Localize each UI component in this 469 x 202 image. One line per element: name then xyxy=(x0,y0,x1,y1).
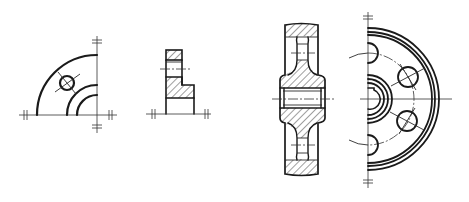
hatched-region xyxy=(285,24,318,38)
pitch-circle-extension xyxy=(349,140,368,145)
hatched-region xyxy=(166,77,194,98)
l-section-view xyxy=(146,50,211,119)
web-wall xyxy=(288,123,297,160)
pitch-circle-extension xyxy=(349,53,368,58)
hatched-region xyxy=(166,50,182,60)
technical-drawing-canvas xyxy=(0,0,469,202)
gear-cross-section-view xyxy=(272,24,334,176)
half-gear-front-view xyxy=(349,12,452,188)
web-wall xyxy=(308,37,317,75)
outer-arc xyxy=(37,55,97,115)
web-wall xyxy=(288,37,297,75)
quarter-flange-view xyxy=(19,36,117,133)
web-wall xyxy=(308,123,317,160)
bolt-hole-half xyxy=(368,135,378,155)
hatched-region xyxy=(285,159,318,176)
bore-arc xyxy=(77,95,97,115)
